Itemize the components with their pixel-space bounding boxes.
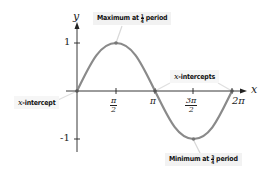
leader-intercept-pi	[155, 83, 170, 91]
leader-intercept-2pi	[218, 83, 232, 91]
x-axis-arrow-icon	[240, 89, 247, 94]
leader-minimum	[193, 139, 200, 153]
leader-maximum	[116, 26, 122, 43]
point-origin	[75, 89, 79, 93]
y-axis-label: y	[73, 10, 79, 23]
point-2pi	[230, 89, 234, 93]
point-pi	[153, 89, 157, 93]
x-tick-pi: π	[150, 96, 156, 106]
callout-x-intercept: x-intercept	[14, 96, 59, 109]
x-axis-label: x	[251, 83, 257, 96]
y-tick-1: 1	[64, 36, 70, 47]
callout-minimum: Minimum at 34 period	[165, 153, 242, 166]
x-tick-pi-over-2: π2	[110, 95, 117, 114]
point-minimum	[192, 137, 196, 141]
leader-intercept-origin	[58, 91, 77, 100]
callout-maximum: Maximum at 14 period	[93, 12, 171, 25]
y-tick-neg1: -1	[60, 132, 70, 143]
y-axis-arrow-icon	[75, 22, 80, 29]
x-tick-3pi-over-2: 3π2	[185, 95, 197, 114]
sine-graph	[0, 0, 268, 177]
point-maximum	[114, 41, 118, 45]
callout-x-intercepts: x-intercepts	[170, 70, 219, 83]
x-tick-2pi: 2π	[232, 95, 245, 106]
